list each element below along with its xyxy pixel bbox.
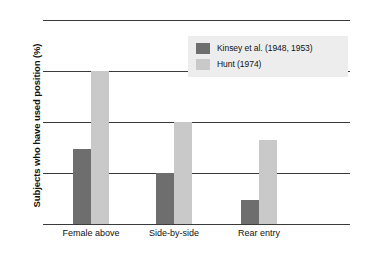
chart-legend: Kinsey et al. (1948, 1953) Hunt (1974) bbox=[188, 36, 348, 77]
bar bbox=[73, 149, 91, 224]
bar bbox=[259, 140, 277, 224]
y-axis-title: Subjects who have used position (%) bbox=[31, 26, 42, 226]
legend-item: Hunt (1974) bbox=[196, 57, 342, 71]
legend-label-hunt: Hunt (1974) bbox=[217, 59, 261, 69]
legend-label-kinsey: Kinsey et al. (1948, 1953) bbox=[217, 43, 313, 53]
bar-group bbox=[73, 20, 109, 224]
y-tick-mark bbox=[43, 71, 51, 72]
bar bbox=[156, 173, 174, 224]
bar-group bbox=[156, 20, 192, 224]
y-tick-mark bbox=[43, 122, 51, 123]
x-category-label: Side-by-side bbox=[149, 228, 199, 238]
y-tick-mark bbox=[43, 173, 51, 174]
bar bbox=[241, 200, 259, 224]
legend-swatch-kinsey bbox=[196, 43, 210, 54]
gridline bbox=[51, 224, 350, 225]
legend-swatch-hunt bbox=[196, 59, 210, 70]
x-category-label: Female above bbox=[62, 228, 119, 238]
bar bbox=[174, 122, 192, 224]
y-tick-mark bbox=[43, 224, 51, 225]
bar-chart: Subjects who have used position (%) 0255… bbox=[0, 0, 378, 261]
y-tick-mark bbox=[43, 20, 51, 21]
legend-item: Kinsey et al. (1948, 1953) bbox=[196, 41, 342, 55]
x-category-label: Rear entry bbox=[238, 228, 280, 238]
bar bbox=[91, 71, 109, 224]
